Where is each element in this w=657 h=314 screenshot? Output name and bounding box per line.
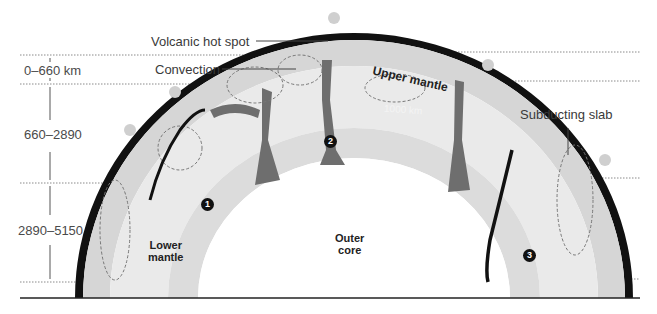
subducting-slab-label: Subducting slab — [520, 108, 613, 121]
convection-label: Convection — [155, 63, 220, 76]
lower-mantle-label: Lower mantle — [148, 240, 183, 263]
marker-1: 1 — [201, 198, 214, 211]
outer-core-label: Outer core — [335, 233, 364, 256]
cross-section-graphic — [0, 0, 657, 314]
depth-range-upper: 0–660 km — [24, 64, 81, 77]
marker-2: 2 — [324, 135, 337, 148]
marker-3: 3 — [523, 249, 536, 262]
depth-range-outer-core: 2890–5150 — [18, 224, 83, 237]
depth-range-lower-mantle: 660–2890 — [24, 128, 82, 141]
mantle-diagram: Volcanic hot spot Convection Subducting … — [0, 0, 657, 314]
volcanic-hot-spot-label: Volcanic hot spot — [151, 35, 249, 48]
